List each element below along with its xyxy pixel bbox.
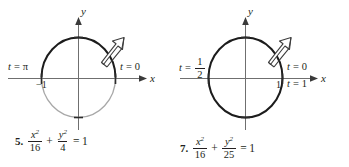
exponent: 2 [36,128,40,136]
denominator-16: 16 [28,141,43,153]
t-equals-one-label: t = 1 [287,79,307,90]
plus-sign: + [46,136,53,148]
t-variable: t [287,62,290,73]
equals-sign: = [293,79,299,90]
denominator-4: 4 [58,141,67,153]
fraction-denominator: 2 [195,68,204,80]
y-squared-numerator: y2 [223,137,235,148]
t-equals-one-half-label: t = 1 2 [179,57,206,80]
x-axis-label: x [150,73,155,84]
x-squared-over-16: x2 16 [28,130,43,153]
x-axis-label: x [321,73,326,84]
equals-sign: = [185,63,191,74]
x-squared-numerator: x2 [194,137,206,148]
caption-problem-7: 7. x2 16 + y2 25 = 1 [180,137,255,160]
exponent: 2 [230,135,234,143]
one-half-fraction: 1 2 [195,57,204,80]
t-variable: t [8,62,11,73]
figure-problem-7: y x t = 1 2 t = 0 t = 1 1 7. [175,0,349,167]
caption-problem-5: 5. x2 16 + y2 4 = 1 [15,130,88,153]
right-hand-side: 1 [82,136,88,148]
y-squared-over-25: y2 25 [222,137,237,160]
figure-problem-5: y x t = π t = 0 −1 5. x2 16 + y2 4 [0,0,175,167]
x-tick-one-label: 1 [276,80,281,90]
fraction-numerator: 1 [195,57,204,68]
figure-page: y x t = π t = 0 −1 5. x2 16 + y2 4 [0,0,349,167]
t-value: 0 [302,62,307,73]
right-hand-side: 1 [249,143,255,155]
exponent: 2 [201,135,205,143]
equals-sign: = [293,62,299,73]
x-axis [8,75,147,82]
x-squared-numerator: x2 [29,130,41,141]
t-equals-zero-label: t = 0 [287,62,307,73]
t-value: 0 [135,62,140,73]
y-squared-over-4: y2 4 [57,130,69,153]
t-equals-pi-label: t = π [8,62,28,73]
problem-number: 5. [15,136,23,147]
x-squared-over-16: x2 16 [193,137,208,160]
t-variable: t [179,63,182,74]
plus-sign: + [211,143,218,155]
equals-sign: = [126,62,132,73]
x-tick-negative-one-label: −1 [36,80,47,90]
equals-sign: = [14,62,20,73]
t-variable: t [120,62,123,73]
y-squared-numerator: y2 [57,130,69,141]
y-axis [75,17,82,130]
y-axis-label: y [248,6,253,17]
denominator-25: 25 [222,148,237,160]
t-equals-zero-label: t = 0 [120,62,140,73]
t-value: 1 [302,79,307,90]
problem-number: 7. [180,143,188,154]
y-axis-label: y [81,6,86,17]
y-axis [242,17,249,130]
t-variable: t [287,79,290,90]
denominator-16: 16 [193,148,208,160]
t-value: π [23,62,28,73]
equals-sign: = [73,136,80,148]
equals-sign: = [240,143,247,155]
exponent: 2 [63,128,67,136]
